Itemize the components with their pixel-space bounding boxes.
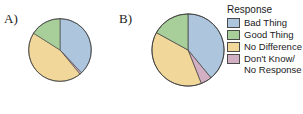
legend-item-label: No Difference xyxy=(244,41,302,52)
legend-item-list: Bad ThingGood ThingNo DifferenceDon't Kn… xyxy=(227,17,303,75)
legend-swatch-icon xyxy=(227,42,240,52)
legend-item-label: Bad Thing xyxy=(244,17,287,28)
legend-swatch-icon xyxy=(227,30,240,40)
legend-item-label: Don't Know/ No Response xyxy=(244,53,302,75)
pie-chart-a xyxy=(27,17,93,83)
pie-a-svg xyxy=(27,17,93,83)
legend-title: Response xyxy=(227,4,303,15)
pie-chart-b xyxy=(150,12,226,88)
panel-label-b: B) xyxy=(119,12,132,25)
legend-swatch-icon xyxy=(227,18,240,28)
panel-label-a: A) xyxy=(4,12,18,25)
legend-item-label: Good Thing xyxy=(244,29,293,40)
pie-chart-figure: A) B) Response Bad ThingGood ThingNo Dif… xyxy=(0,0,303,114)
pie-b-svg xyxy=(150,12,226,88)
legend-item: No Difference xyxy=(227,41,303,52)
legend-item: Don't Know/ No Response xyxy=(227,53,303,75)
legend-item: Good Thing xyxy=(227,29,303,40)
legend-swatch-icon xyxy=(227,54,240,64)
legend: Response Bad ThingGood ThingNo Differenc… xyxy=(227,4,303,76)
legend-item: Bad Thing xyxy=(227,17,303,28)
